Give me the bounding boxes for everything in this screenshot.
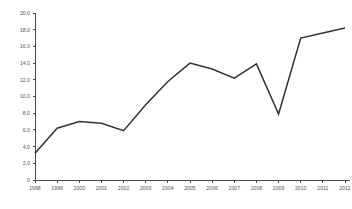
x-tick-label: 2002 <box>118 185 130 191</box>
y-tick-group: 02.04.06.08.010.012.014.016.018.020.0 <box>20 10 35 183</box>
data-series-line <box>35 28 345 153</box>
y-tick-label: 6.0 <box>23 127 30 133</box>
y-tick-label: 4.0 <box>23 144 30 150</box>
x-tick-label: 2006 <box>206 185 218 191</box>
x-tick-label: 2008 <box>251 185 263 191</box>
y-tick-label: 14.0 <box>20 60 30 66</box>
line-chart: 02.04.06.08.010.012.014.016.018.020.0 19… <box>0 0 352 209</box>
x-tick-label: 2010 <box>295 185 307 191</box>
x-tick-label: 2003 <box>140 185 152 191</box>
x-tick-label: 2007 <box>229 185 241 191</box>
x-tick-label: 2009 <box>273 185 285 191</box>
y-tick-label: 10.0 <box>20 93 30 99</box>
y-axis: 02.04.06.08.010.012.014.016.018.020.0 <box>20 10 35 183</box>
x-tick-label: 2011 <box>317 185 328 191</box>
y-tick-label: 16.0 <box>20 43 30 49</box>
x-tick-label: 2000 <box>74 185 86 191</box>
y-tick-label: 2.0 <box>23 160 30 166</box>
chart-canvas: 02.04.06.08.010.012.014.016.018.020.0 19… <box>0 0 352 209</box>
x-tick-label: 2005 <box>184 185 196 191</box>
y-tick-label: 20.0 <box>20 10 30 16</box>
x-tick-label: 1998 <box>29 185 41 191</box>
x-tick-label: 2012 <box>339 185 351 191</box>
x-tick-label: 2001 <box>96 185 108 191</box>
series-group <box>35 28 345 153</box>
x-tick-group: 1998199920002001200220032004200520062007… <box>29 180 351 191</box>
x-axis: 1998199920002001200220032004200520062007… <box>29 180 351 191</box>
y-tick-label: 12.0 <box>20 77 30 83</box>
x-tick-label: 1999 <box>51 185 63 191</box>
x-tick-label: 2004 <box>162 185 174 191</box>
y-tick-label: 0 <box>27 177 30 183</box>
y-tick-label: 18.0 <box>20 27 30 33</box>
y-tick-label: 8.0 <box>23 110 30 116</box>
